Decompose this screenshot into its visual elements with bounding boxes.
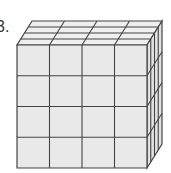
figure: 3. xyxy=(0,0,171,173)
cube-diagram xyxy=(0,0,171,173)
